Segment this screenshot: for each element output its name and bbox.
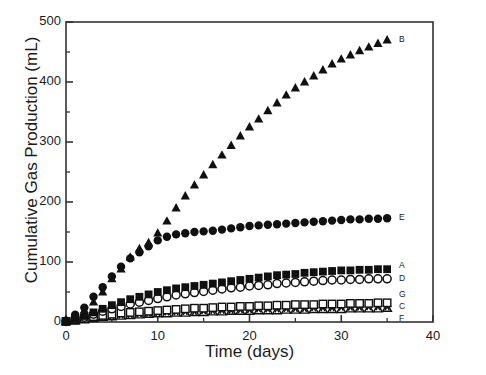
data-point (364, 42, 373, 50)
data-point (227, 224, 235, 232)
data-point (209, 227, 217, 235)
data-point (309, 71, 318, 79)
data-point (127, 309, 134, 316)
data-point (301, 269, 309, 277)
data-point (218, 303, 225, 310)
data-point (282, 90, 291, 98)
y-tick-label: 100 (39, 253, 61, 268)
data-point (365, 275, 373, 283)
data-point (283, 302, 290, 309)
data-point (199, 170, 208, 178)
data-point (282, 271, 290, 279)
data-point (365, 266, 373, 274)
data-point (328, 276, 336, 284)
data-point (337, 276, 345, 284)
data-point (273, 302, 280, 309)
x-tick-label: 10 (138, 328, 178, 343)
data-point (282, 279, 290, 287)
data-point (301, 278, 309, 286)
data-point (245, 122, 254, 130)
plot-area (0, 0, 486, 375)
data-point (319, 217, 327, 225)
series-label-F: F (399, 313, 404, 323)
data-point (227, 277, 235, 285)
data-point (310, 301, 317, 308)
data-point (264, 281, 272, 289)
data-point (209, 280, 217, 288)
data-point (208, 160, 217, 168)
data-point (181, 283, 189, 291)
series-label-D: D (399, 273, 405, 283)
data-point (328, 300, 335, 307)
data-point (355, 46, 364, 54)
y-tick-label: 500 (39, 13, 61, 28)
data-point (310, 268, 318, 276)
series-label-E: E (399, 212, 405, 222)
data-point (200, 305, 207, 312)
data-point (383, 265, 391, 273)
data-point (346, 275, 354, 283)
series-label-C: C (399, 301, 405, 311)
data-point (319, 300, 326, 307)
data-point (291, 270, 299, 278)
y-tick-label: 300 (39, 133, 61, 148)
series-label-A: A (399, 260, 405, 270)
data-point (310, 277, 318, 285)
data-point (117, 298, 125, 306)
data-point (273, 280, 281, 288)
data-point (217, 150, 226, 158)
data-point (218, 279, 226, 287)
data-point (282, 219, 290, 227)
data-point (246, 282, 254, 290)
data-point (347, 300, 354, 307)
data-point (227, 141, 236, 149)
data-point (182, 305, 189, 312)
data-point (383, 35, 392, 43)
data-point (255, 302, 262, 309)
data-point (254, 114, 263, 122)
data-point (291, 219, 299, 227)
data-point (356, 275, 364, 283)
data-point (236, 276, 244, 284)
x-tick-label: 0 (46, 328, 86, 343)
data-point (236, 131, 245, 139)
data-point (172, 306, 179, 313)
data-point (145, 308, 152, 315)
data-point (99, 305, 107, 313)
data-point (273, 220, 281, 228)
data-point (245, 222, 253, 230)
data-point (264, 273, 272, 281)
data-point (292, 301, 299, 308)
data-point (374, 215, 382, 223)
data-point (190, 180, 199, 188)
data-point (310, 218, 318, 226)
data-point (199, 227, 207, 235)
data-point (264, 221, 272, 229)
data-point (319, 277, 327, 285)
data-point (154, 236, 162, 244)
data-point (172, 230, 180, 238)
data-point (356, 300, 363, 307)
data-point (136, 308, 143, 315)
data-point (227, 303, 234, 310)
data-point (145, 291, 153, 299)
data-point (291, 278, 299, 286)
data-point (338, 300, 345, 307)
data-point (300, 77, 309, 85)
data-point (162, 216, 171, 224)
y-tick-label: 200 (39, 193, 61, 208)
data-point (154, 307, 161, 314)
data-point (172, 285, 180, 293)
data-point (90, 309, 98, 317)
data-point (246, 303, 253, 310)
data-point (337, 267, 345, 275)
data-point (200, 281, 208, 289)
data-point (365, 215, 373, 223)
data-point (374, 299, 381, 306)
data-point (337, 54, 346, 62)
series-label-G: G (399, 289, 406, 299)
data-point (236, 283, 244, 291)
data-point (254, 221, 262, 229)
data-point (346, 215, 354, 223)
data-point (291, 83, 300, 91)
